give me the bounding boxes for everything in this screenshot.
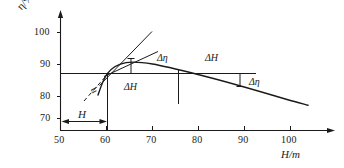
annotation-delta-eta-right: Δη [249,76,260,87]
y-tick-label-80: 80 [40,90,51,101]
x-tick-label-50: 50 [54,134,65,145]
y-tick-label-100: 100 [34,26,50,37]
x-tick-label-80: 80 [192,134,203,145]
y-tick-label-70: 70 [40,112,51,123]
annotation-delta-h-right: ΔH [205,52,218,63]
annotation-delta-eta-left: Δη [157,52,168,63]
efficiency-head-chart: η/% 100 90 80 70 50 60 70 80 90 100 H/m … [0,0,344,168]
x-axis-arrowhead [327,128,335,133]
annotation-h-span: H [78,108,86,120]
x-tick-label-100: 100 [281,134,297,145]
y-tick-label-90: 90 [40,58,51,69]
x-axis-title: H/m [281,148,300,160]
x-tick-label-70: 70 [146,134,157,145]
x-axis-ticks [61,126,291,131]
y-axis-arrowhead [58,10,63,18]
delta-eta-bar-left [128,59,135,74]
annotation-delta-h-left: ΔH [124,81,137,92]
x-tick-label-90: 90 [238,134,249,145]
x-tick-label-60: 60 [100,134,111,145]
